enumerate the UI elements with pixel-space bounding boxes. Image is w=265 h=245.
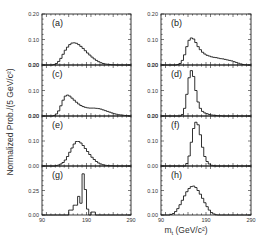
y-tick-label: 0.20 (28, 113, 39, 119)
y-tick-label: 0.10 (147, 37, 158, 43)
panel-d: 0.000.100.20(d) (147, 62, 251, 119)
panel-a: 0.000.100.20(a) (28, 11, 131, 68)
y-tick-label: 0.10 (147, 138, 158, 144)
panel-label: (a) (52, 18, 63, 28)
y-tick-label: 0.00 (147, 163, 158, 169)
panel-label: (f) (171, 120, 180, 130)
panel-label: (d) (171, 69, 182, 79)
x-axis-title: mt (GeV/c²) (164, 225, 207, 236)
panel-b: 0.000.100.20(b) (147, 11, 251, 68)
x-tick-label: 90 (39, 217, 45, 223)
x-tick-label: 90 (158, 217, 164, 223)
histogram-line (161, 38, 251, 65)
histogram-line (42, 174, 131, 215)
y-tick-label: 0.20 (147, 11, 158, 17)
panel-f: 0.000.100.20(f) (147, 113, 251, 169)
histogram-line (42, 95, 131, 116)
panel-label: (b) (171, 18, 182, 28)
x-axis-title-units: (GeV/c²) (173, 225, 208, 235)
panel-label: (g) (52, 170, 63, 180)
y-tick-label: 0.25 (28, 188, 39, 194)
x-tick-label: 290 (246, 217, 255, 223)
panel-label: (c) (52, 69, 63, 79)
y-tick-label: 0.20 (28, 62, 39, 68)
panel-label: (e) (52, 120, 63, 130)
y-tick-label: 0.10 (147, 88, 158, 94)
histogram-line (42, 142, 131, 167)
y-tick-label: 0.10 (147, 188, 158, 194)
panel-e: 0.000.100.20(e) (28, 113, 131, 169)
y-tick-label: 0.20 (147, 113, 158, 119)
x-axis-title-main: m (164, 225, 171, 235)
y-tick-label: 0.00 (28, 163, 39, 169)
x-tick-label: 290 (126, 217, 135, 223)
x-tick-label: 190 (201, 217, 210, 223)
panels-group: 0.000.100.20(a)0.000.100.20(b)0.000.100.… (28, 11, 255, 223)
y-tick-label: 0.00 (147, 212, 158, 218)
y-tick-label: 0.10 (28, 88, 39, 94)
panel-h: 0.000.10(h)90190290 (147, 166, 255, 223)
y-tick-label: 0.00 (28, 212, 39, 218)
y-axis-title: Normalized Prob./(5 GeV/c²) (5, 68, 15, 175)
histogram-line (161, 186, 251, 215)
histogram-line (42, 43, 131, 65)
y-tick-label: 0.10 (28, 138, 39, 144)
y-tick-label: 0.20 (147, 62, 158, 68)
panel-c: 0.000.100.20(c) (28, 62, 131, 119)
histogram-figure: 0.000.100.20(a)0.000.100.20(b)0.000.100.… (0, 0, 265, 245)
y-tick-label: 0.10 (28, 37, 39, 43)
panel-label: (h) (171, 170, 182, 180)
y-tick-label: 0.20 (28, 11, 39, 17)
x-tick-label: 190 (82, 217, 91, 223)
panel-g: 0.000.25(g)90190290 (28, 166, 135, 223)
